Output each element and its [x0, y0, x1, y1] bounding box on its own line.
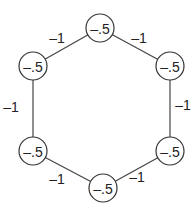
edge-weight-label: –1: [49, 171, 65, 187]
node-label: –.5: [93, 181, 113, 197]
node-label: –.5: [23, 59, 43, 75]
edge-weight-label: –1: [3, 99, 19, 115]
node-upper-left: –.5: [19, 52, 47, 80]
edges-group: [33, 28, 170, 188]
node-label: –.5: [23, 144, 43, 160]
node-bottom: –.5: [89, 174, 117, 202]
hexagon-graph-diagram: –1–1–1–1–1–1 –.5–.5–.5–.5–.5–.5: [0, 0, 195, 215]
node-upper-right: –.5: [156, 52, 184, 80]
node-lower-right: –.5: [156, 137, 184, 165]
node-top: –.5: [86, 14, 114, 42]
edge-weight-label: –1: [175, 97, 191, 113]
edge-weight-label: –1: [49, 30, 65, 46]
edge-weight-label: –1: [129, 169, 145, 185]
nodes-group: –.5–.5–.5–.5–.5–.5: [19, 14, 184, 202]
edge-weight-label: –1: [131, 30, 147, 46]
node-label: –.5: [90, 21, 110, 37]
node-label: –.5: [160, 59, 180, 75]
node-label: –.5: [160, 144, 180, 160]
node-lower-left: –.5: [19, 137, 47, 165]
